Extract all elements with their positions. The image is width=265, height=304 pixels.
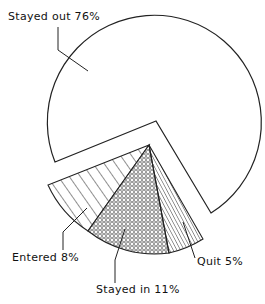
label-stayed-out: Stayed out 76% [8, 10, 100, 23]
label-quit: Quit 5% [197, 255, 243, 268]
label-entered: Entered 8% [12, 251, 79, 264]
label-stayed-in: Stayed in 11% [96, 283, 180, 296]
